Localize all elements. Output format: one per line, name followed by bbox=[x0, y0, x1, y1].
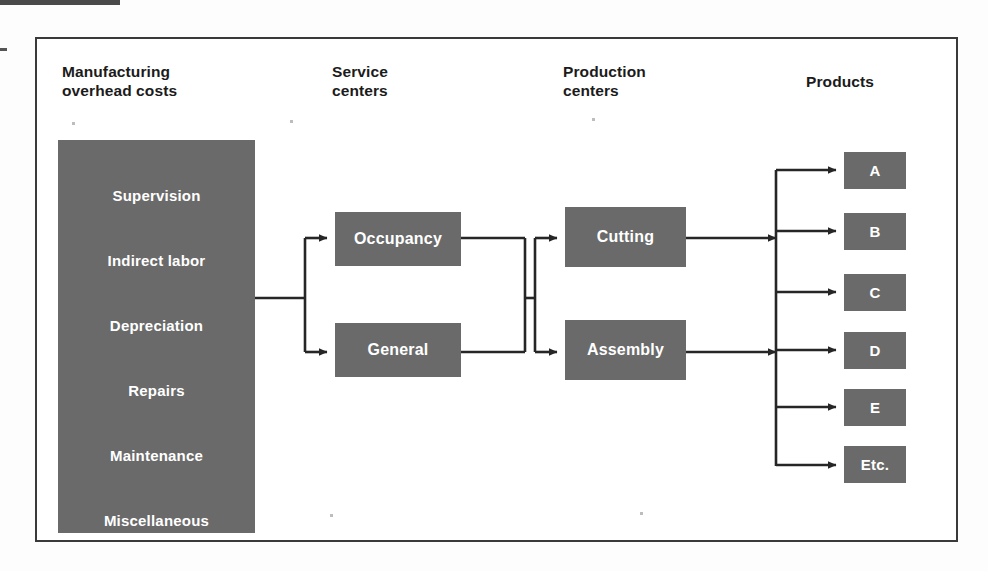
scan-speck bbox=[290, 120, 293, 123]
scan-speck bbox=[72, 122, 75, 125]
column-heading-production-line1: Production bbox=[563, 62, 723, 81]
column-heading-service: Service centers bbox=[332, 62, 482, 100]
scan-artifact-left bbox=[0, 48, 7, 51]
product-box-etc: Etc. bbox=[844, 446, 906, 483]
scan-speck bbox=[640, 512, 643, 515]
service-center-occupancy: Occupancy bbox=[335, 212, 461, 266]
overhead-cost-item: Supervision bbox=[58, 163, 255, 228]
scan-speck bbox=[592, 118, 595, 121]
column-heading-production: Production centers bbox=[563, 62, 723, 100]
diagram-canvas: Manufacturing overhead costs Service cen… bbox=[0, 0, 988, 571]
scan-speck bbox=[330, 514, 333, 517]
overhead-costs-box: Supervision Indirect labor Depreciation … bbox=[58, 140, 255, 533]
column-heading-production-line2: centers bbox=[563, 81, 723, 100]
column-heading-overhead-line1: Manufacturing bbox=[62, 62, 272, 81]
column-heading-overhead: Manufacturing overhead costs bbox=[62, 62, 272, 100]
product-box-c: C bbox=[844, 274, 906, 311]
overhead-cost-item: Miscellaneous bbox=[58, 488, 255, 553]
column-heading-products-line1: Products bbox=[806, 72, 946, 91]
service-center-general: General bbox=[335, 323, 461, 377]
production-center-cutting: Cutting bbox=[565, 207, 686, 267]
column-heading-service-line2: centers bbox=[332, 81, 482, 100]
column-heading-service-line1: Service bbox=[332, 62, 482, 81]
overhead-cost-item: Depreciation bbox=[58, 293, 255, 358]
product-box-e: E bbox=[844, 389, 906, 426]
overhead-cost-item: Repairs bbox=[58, 358, 255, 423]
product-box-d: D bbox=[844, 332, 906, 369]
column-heading-products: Products bbox=[806, 72, 946, 91]
production-center-assembly: Assembly bbox=[565, 320, 686, 380]
product-box-a: A bbox=[844, 152, 906, 189]
overhead-cost-item: Indirect labor bbox=[58, 228, 255, 293]
scan-artifact-top bbox=[0, 0, 120, 5]
overhead-cost-item: Maintenance bbox=[58, 423, 255, 488]
column-heading-overhead-line2: overhead costs bbox=[62, 81, 272, 100]
product-box-b: B bbox=[844, 213, 906, 250]
